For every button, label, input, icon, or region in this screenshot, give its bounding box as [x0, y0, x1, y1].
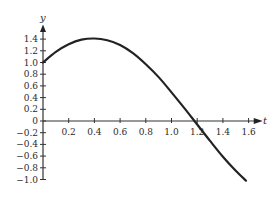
axes [40, 24, 263, 179]
x-tick-label: 0.8 [139, 127, 154, 137]
y-tick-label: 0.2 [24, 104, 38, 114]
y-axis-arrow-icon [40, 24, 46, 32]
line-chart: 0.20.40.60.81.01.21.41.61.41.21.00.80.60… [0, 0, 279, 199]
x-tick-label: 1.0 [164, 127, 179, 137]
y-tick-label: 0 [32, 116, 38, 126]
y-tick-label: 0.4 [24, 93, 39, 103]
y-tick-label: 1.0 [24, 58, 39, 68]
y-tick-label: −0.4 [16, 139, 38, 149]
y-tick-label: 1.2 [24, 46, 38, 56]
x-tick-label: 1.4 [216, 127, 231, 137]
ticks [40, 39, 249, 179]
y-tick-label: −0.2 [16, 128, 38, 138]
x-tick-label: 0.6 [113, 127, 128, 137]
y-axis-label: y [39, 12, 46, 23]
y-tick-label: −1.0 [16, 175, 38, 185]
y-tick-label: 1.4 [24, 34, 39, 44]
x-tick-label: 1.6 [241, 127, 256, 137]
data-curve [43, 38, 246, 180]
x-tick-label: 0.2 [62, 127, 76, 137]
y-tick-label: 0.6 [24, 81, 39, 91]
y-tick-label: −0.8 [16, 163, 38, 173]
x-tick-label: 0.4 [87, 127, 102, 137]
y-tick-label: 0.8 [24, 69, 39, 79]
x-axis-label: t [263, 115, 268, 126]
x-axis-arrow-icon [254, 118, 263, 124]
y-tick-label: −0.6 [16, 151, 38, 161]
